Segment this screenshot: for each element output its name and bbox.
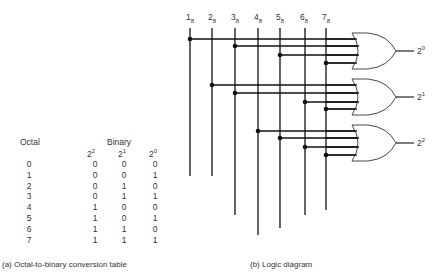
input-label-6: 68 <box>300 12 308 24</box>
input-label-4: 48 <box>254 12 262 24</box>
input-label-1: 18 <box>186 12 194 24</box>
diagram-caption: (b) Logic diagram <box>250 260 312 269</box>
input-label-3: 38 <box>231 12 239 24</box>
output-label-2-1: 21 <box>417 91 425 102</box>
input-label-2: 28 <box>208 12 216 24</box>
or-gate-2-0 <box>352 33 396 69</box>
or-gate-2-1 <box>352 79 396 115</box>
output-label-2-2: 22 <box>417 137 425 148</box>
logic-diagram <box>0 0 443 277</box>
input-label-5: 58 <box>276 12 284 24</box>
or-gate-2-2 <box>352 125 396 161</box>
input-label-7: 78 <box>322 12 330 24</box>
output-label-2-0: 20 <box>417 45 425 56</box>
